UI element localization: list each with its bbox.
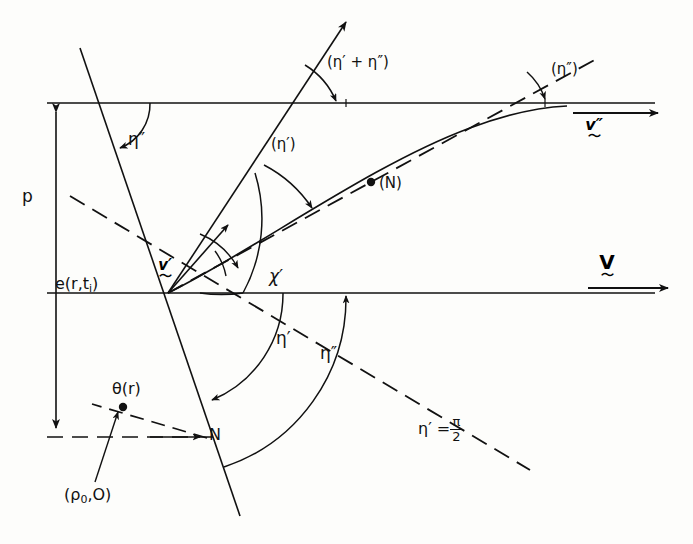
figure-canvas: p e(r,ti) η″ (η′ + η″) (η″) (η′) (N) v′ … (0, 0, 693, 544)
label-eta-double-prime-upper-left: η″ (128, 131, 145, 148)
label-node-n-paren: (N) (379, 176, 402, 191)
node-point-marker (367, 178, 375, 186)
label-point-n: N (209, 427, 221, 443)
label-eta-double-prime-right: (η″) (551, 62, 578, 77)
label-impact-parameter-p: p (22, 188, 33, 205)
label-v-prime-vector: v′ ～ (152, 258, 178, 279)
rho-zero-tail: ,O) (87, 485, 111, 504)
label-eta-sum: (η′ + η″) (327, 55, 389, 70)
label-eta-prime-equals-pi-over-two: η′ =π2 (418, 415, 463, 443)
label-chi-prime: χ′ (269, 268, 283, 285)
angle-arc-bundle-near-origin (200, 234, 238, 276)
angle-arc-eta-prime-lower (212, 293, 283, 400)
label-eta-prime-lower: η′ (276, 330, 291, 347)
diagram-vector-graphics (0, 0, 693, 544)
fraction-numerator: π (450, 415, 462, 430)
label-v-vector: V ～ (593, 252, 621, 278)
angle-arc-eta-prime-paren (264, 165, 312, 208)
label-theta-r: θ(r) (112, 381, 141, 397)
label-v-double-prime-vector: v″ ～ (579, 117, 609, 139)
particle-trajectory-curve (168, 106, 567, 293)
e-field-text: e(r,t (55, 274, 89, 293)
label-eta-double-prime-lower: η″ (320, 345, 337, 362)
theta-point-marker (119, 403, 127, 411)
v-prime-tilde: ～ (152, 273, 178, 279)
label-electric-field: e(r,ti) (55, 276, 98, 294)
eta-equals-text: η′ = (418, 419, 450, 438)
v-double-prime-tilde: ～ (579, 133, 609, 139)
label-rho-zero-origin: (ρ0,O) (64, 487, 111, 505)
pi-over-two-fraction: π2 (450, 415, 462, 443)
angle-arc-chi-prime (200, 173, 262, 294)
radius-vector-dashed (92, 404, 207, 438)
label-eta-prime-paren: (η′) (271, 137, 296, 152)
scattered-direction-ray (168, 22, 346, 293)
angle-arc-eta-double-prime-right (527, 72, 545, 99)
rho-zero-open: (ρ (64, 485, 80, 504)
v-vector-tilde: ～ (593, 272, 621, 278)
rho-zero-pointer (95, 412, 118, 482)
e-field-close-paren: ) (92, 274, 98, 293)
fraction-denominator: 2 (450, 430, 462, 444)
